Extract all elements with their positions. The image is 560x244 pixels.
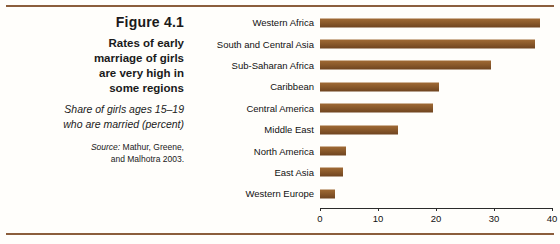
bar xyxy=(320,61,491,70)
x-axis-tick-mark xyxy=(378,208,379,211)
figure-title-line: Rates of early xyxy=(8,36,184,51)
figure-number: Figure 4.1 xyxy=(8,14,184,30)
bar-track xyxy=(320,12,552,33)
x-axis-tick-label: 20 xyxy=(431,213,442,224)
bar-category-label: Sub-Saharan Africa xyxy=(186,60,320,71)
figure-source: Source: Mathur, Greene, and Malhotra 200… xyxy=(8,141,184,165)
figure-subtitle-line: Share of girls ages 15–19 xyxy=(8,102,184,117)
chart-row: Western Europe xyxy=(186,183,552,204)
bar-track xyxy=(320,98,552,119)
chart-row: Sub-Saharan Africa xyxy=(186,55,552,76)
bar-fill xyxy=(320,18,540,27)
bar-track xyxy=(320,162,552,183)
bar-fill xyxy=(320,104,433,113)
bar-fill xyxy=(320,61,491,70)
bar-chart: Western AfricaSouth and Central AsiaSub-… xyxy=(186,12,552,222)
figure-title: Rates of early marriage of girls are ver… xyxy=(8,36,184,96)
bar-fill xyxy=(320,147,346,156)
x-axis-tick-mark xyxy=(552,208,553,211)
chart-row: East Asia xyxy=(186,162,552,183)
x-axis-tick-mark xyxy=(320,208,321,211)
bar-category-label: North America xyxy=(186,146,320,157)
top-divider-rule xyxy=(6,5,554,7)
figure-panel: Figure 4.1 Rates of early marriage of gi… xyxy=(0,0,560,244)
bar-track xyxy=(320,33,552,54)
bar-fill xyxy=(320,168,343,177)
chart-rows: Western AfricaSouth and Central AsiaSub-… xyxy=(186,12,552,205)
bar-fill xyxy=(320,189,335,198)
bar-category-label: East Asia xyxy=(186,167,320,178)
bar-fill xyxy=(320,40,535,49)
chart-row: South and Central Asia xyxy=(186,33,552,54)
figure-source-line: and Malhotra 2003. xyxy=(8,153,184,165)
bar xyxy=(320,125,398,134)
bar xyxy=(320,147,346,156)
source-lead-label: Source: xyxy=(91,142,120,152)
x-axis-tick-label: 0 xyxy=(317,213,322,224)
x-axis-tick-mark xyxy=(436,208,437,211)
bar-fill xyxy=(320,125,398,134)
bar-category-label: Middle East xyxy=(186,124,320,135)
figure-subtitle: Share of girls ages 15–19 who are marrie… xyxy=(8,102,184,132)
bar xyxy=(320,189,335,198)
bar xyxy=(320,82,439,91)
figure-title-line: marriage of girls xyxy=(8,51,184,66)
bar-category-label: Western Europe xyxy=(186,188,320,199)
bar-track xyxy=(320,183,552,204)
bar xyxy=(320,40,535,49)
x-axis-tick-label: 40 xyxy=(547,213,558,224)
figure-title-line: some regions xyxy=(8,81,184,96)
x-axis-tick-label: 10 xyxy=(373,213,384,224)
bar-category-label: Caribbean xyxy=(186,81,320,92)
caption-column: Figure 4.1 Rates of early marriage of gi… xyxy=(8,14,184,165)
bar xyxy=(320,168,343,177)
chart-row: Central America xyxy=(186,98,552,119)
bar-category-label: Central America xyxy=(186,103,320,114)
chart-row: Western Africa xyxy=(186,12,552,33)
bar-category-label: South and Central Asia xyxy=(186,39,320,50)
bar xyxy=(320,104,433,113)
figure-subtitle-line: who are married (percent) xyxy=(8,117,184,132)
figure-source-line: Source: Mathur, Greene, xyxy=(8,141,184,153)
figure-title-line: are very high in xyxy=(8,66,184,81)
bar-track xyxy=(320,140,552,161)
chart-row: North America xyxy=(186,140,552,161)
bar-track xyxy=(320,119,552,140)
chart-row: Caribbean xyxy=(186,76,552,97)
source-text: Mathur, Greene, xyxy=(120,142,184,152)
bar-track xyxy=(320,55,552,76)
chart-row: Middle East xyxy=(186,119,552,140)
x-axis-tick-label: 30 xyxy=(489,213,500,224)
x-axis-tick-mark xyxy=(494,208,495,211)
bar-fill xyxy=(320,82,439,91)
bottom-divider-rule xyxy=(6,233,554,235)
bar xyxy=(320,18,540,27)
bar-track xyxy=(320,76,552,97)
x-axis: 010203040 xyxy=(320,208,552,232)
bar-category-label: Western Africa xyxy=(186,17,320,28)
